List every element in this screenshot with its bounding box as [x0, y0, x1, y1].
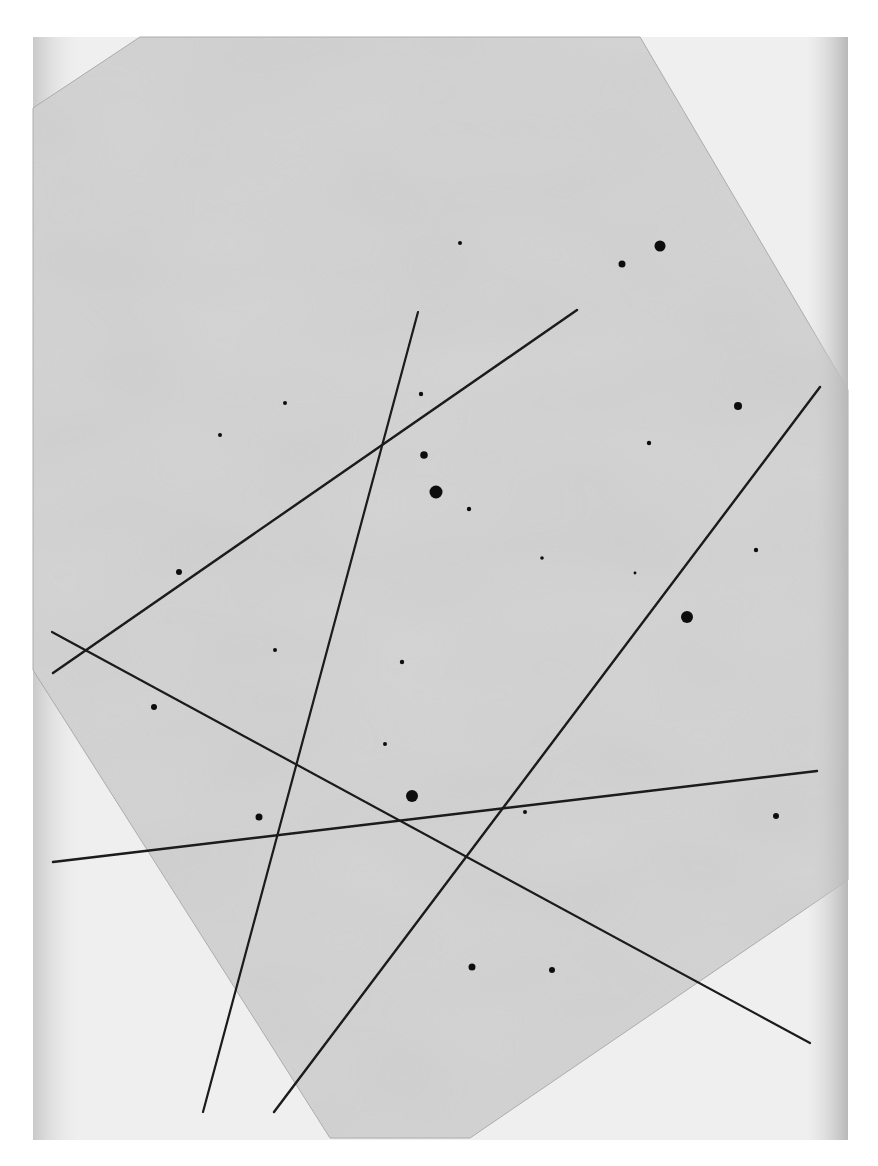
star-10	[430, 486, 443, 499]
star-6	[283, 401, 287, 405]
star-20	[383, 742, 387, 746]
star-26	[549, 967, 555, 973]
star-19	[151, 704, 157, 710]
star-3	[458, 241, 462, 245]
star-2	[619, 261, 626, 268]
star-25	[469, 964, 476, 971]
plate-right-shadow	[33, 37, 848, 1140]
photographic-plate-image	[0, 0, 878, 1166]
star-23	[523, 810, 527, 814]
plate-canvas	[0, 0, 878, 1166]
star-13	[754, 548, 758, 552]
star-11	[467, 507, 471, 511]
star-7	[419, 392, 423, 396]
star-8	[218, 433, 222, 437]
star-4	[734, 402, 742, 410]
star-22	[256, 814, 263, 821]
star-15	[681, 611, 693, 623]
star-17	[273, 648, 277, 652]
star-16	[176, 569, 182, 575]
star-18	[400, 660, 404, 664]
star-9	[420, 451, 428, 459]
star-5	[647, 441, 651, 445]
star-14	[634, 572, 637, 575]
star-24	[773, 813, 779, 819]
star-21	[406, 790, 418, 802]
star-12	[540, 556, 544, 560]
star-1	[655, 241, 666, 252]
